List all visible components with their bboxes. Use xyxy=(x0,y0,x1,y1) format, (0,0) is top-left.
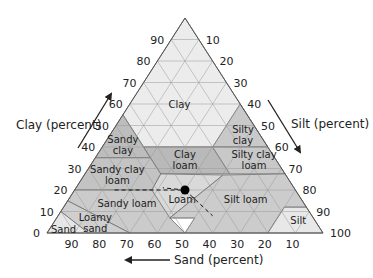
clay-tick: 40 xyxy=(81,141,95,154)
sample-point-marker xyxy=(181,186,190,195)
silt-tick: 10 xyxy=(206,34,220,47)
clay-tick: 70 xyxy=(123,77,137,90)
region-label: Loamy xyxy=(79,212,112,223)
sand-tick: 10 xyxy=(285,238,299,251)
region-label: clay xyxy=(233,135,253,146)
silt-tick: 100 xyxy=(330,227,351,240)
clay-tick: 10 xyxy=(40,206,54,219)
region-label: Sandy clay xyxy=(90,164,145,175)
silt-tick: 90 xyxy=(316,206,330,219)
region-label: loam xyxy=(173,160,198,171)
region-label: loam xyxy=(242,160,267,171)
region-label: Loam xyxy=(169,194,196,205)
region-label: Silty xyxy=(232,124,254,135)
sand-tick: 20 xyxy=(258,238,272,251)
region-label: Sandy loam xyxy=(97,198,156,209)
sand-tick: 80 xyxy=(92,238,106,251)
sand-tick: 60 xyxy=(147,238,161,251)
region-label: sand xyxy=(83,223,107,234)
clay-tick: 90 xyxy=(150,34,164,47)
region-label: Clay xyxy=(174,149,196,160)
region-label: Clay xyxy=(169,99,191,110)
silt-tick: 50 xyxy=(261,120,275,133)
silt-tick: 20 xyxy=(220,55,234,68)
region-label: clay xyxy=(113,145,133,156)
soil-texture-triangle: ClaySandyclaySiltyclaySandy clayloamClay… xyxy=(0,0,373,278)
region-label: Silt loam xyxy=(224,194,268,205)
sand-tick: 40 xyxy=(203,238,217,251)
region-label: Sandy xyxy=(107,134,138,145)
sand-tick: 50 xyxy=(175,238,189,251)
clay-tick: 30 xyxy=(67,163,81,176)
clay-tick: 80 xyxy=(136,55,150,68)
clay-tick: 20 xyxy=(54,184,68,197)
region-label: loam xyxy=(105,175,130,186)
silt-axis-label: Silt (percent) xyxy=(291,117,369,131)
silt-tick: 40 xyxy=(247,98,261,111)
region-label: Sand xyxy=(51,224,76,235)
silt-tick: 30 xyxy=(233,77,247,90)
sand-tick: 70 xyxy=(120,238,134,251)
region-label: Silt xyxy=(290,215,306,226)
silt-tick: 80 xyxy=(302,184,316,197)
clay-axis-label: Clay (percent) xyxy=(16,118,101,132)
clay-tick: 0 xyxy=(33,227,40,240)
triangle-svg: ClaySandyclaySiltyclaySandy clayloamClay… xyxy=(0,0,373,278)
silt-tick: 60 xyxy=(275,141,289,154)
sand-axis-label: Sand (percent) xyxy=(174,253,263,267)
region-label: Silty clay xyxy=(231,149,276,160)
silt-tick: 70 xyxy=(289,163,303,176)
sand-tick: 30 xyxy=(230,238,244,251)
clay-tick: 60 xyxy=(109,98,123,111)
sand-tick: 90 xyxy=(65,238,79,251)
